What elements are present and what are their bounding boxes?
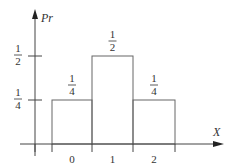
bar-2 <box>133 100 175 144</box>
x-tick-label: 0 <box>69 153 75 165</box>
fraction-denominator: 2 <box>110 41 116 53</box>
fraction-numerator: 1 <box>151 72 157 84</box>
x-tick-label: 1 <box>110 153 116 165</box>
fraction-numerator: 1 <box>110 28 116 40</box>
y-axis-label: Pr <box>40 11 53 25</box>
fraction-numerator: 1 <box>15 42 21 54</box>
bar-0 <box>52 100 92 144</box>
probability-histogram: 141214 1412 012 Pr X <box>0 0 237 168</box>
bars: 141214 <box>52 28 175 144</box>
bar-value-label-0: 14 <box>68 72 76 97</box>
x-tick-label: 2 <box>151 153 157 165</box>
bar-value-label-2: 14 <box>150 72 158 97</box>
fraction-denominator: 2 <box>15 55 21 67</box>
x-axis-arrow-icon <box>213 141 224 147</box>
y-ticks: 1412 <box>14 42 42 111</box>
x-ticks: 012 <box>35 144 175 165</box>
fraction-numerator: 1 <box>15 86 21 98</box>
fraction-numerator: 1 <box>69 72 75 84</box>
fraction-denominator: 4 <box>69 85 75 97</box>
y-tick-label: 12 <box>14 42 22 67</box>
axes <box>20 9 224 156</box>
y-axis-arrow-icon <box>32 9 38 19</box>
fraction-denominator: 4 <box>15 99 21 111</box>
fraction-denominator: 4 <box>151 85 157 97</box>
y-tick-label: 14 <box>14 86 22 111</box>
x-axis-label: X <box>212 125 221 139</box>
bar-value-label-1: 12 <box>109 28 117 53</box>
bar-1 <box>92 56 133 144</box>
